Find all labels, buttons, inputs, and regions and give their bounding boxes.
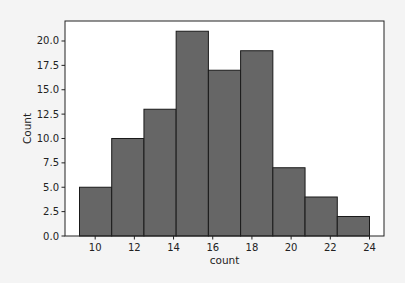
histogram-bar <box>208 70 240 236</box>
x-tick-label: 14 <box>167 242 180 253</box>
x-axis-label: count <box>210 254 240 266</box>
y-tick-label: 15.0 <box>37 84 59 95</box>
histogram-chart: 0.02.55.07.510.012.515.017.520.0 1012141… <box>0 0 405 283</box>
histogram-bar <box>80 187 112 236</box>
histogram-figure: 0.02.55.07.510.012.515.017.520.0 1012141… <box>0 0 405 283</box>
y-tick-label: 0.0 <box>43 231 59 242</box>
x-axis-ticks: 1012141618202224 <box>89 236 376 253</box>
y-tick-label: 10.0 <box>37 133 59 144</box>
histogram-bar <box>176 31 208 236</box>
y-tick-label: 2.5 <box>43 206 59 217</box>
x-tick-label: 24 <box>363 242 376 253</box>
y-tick-label: 5.0 <box>43 182 59 193</box>
x-tick-label: 22 <box>324 242 337 253</box>
y-tick-label: 12.5 <box>37 109 59 120</box>
histogram-bar <box>241 51 273 236</box>
y-tick-label: 20.0 <box>37 35 59 46</box>
y-axis-label: Count <box>21 113 33 144</box>
x-tick-label: 20 <box>285 242 298 253</box>
histogram-bar <box>337 216 369 236</box>
y-axis-ticks: 0.02.55.07.510.012.515.017.520.0 <box>37 35 65 241</box>
x-tick-label: 10 <box>89 242 102 253</box>
histogram-bar <box>144 109 176 236</box>
x-tick-label: 16 <box>206 242 219 253</box>
x-tick-label: 18 <box>246 242 259 253</box>
histogram-bar <box>305 197 337 236</box>
histogram-bar <box>273 168 305 236</box>
y-tick-label: 7.5 <box>43 157 59 168</box>
y-tick-label: 17.5 <box>37 60 59 71</box>
x-tick-label: 12 <box>128 242 141 253</box>
histogram-bar <box>112 138 144 236</box>
